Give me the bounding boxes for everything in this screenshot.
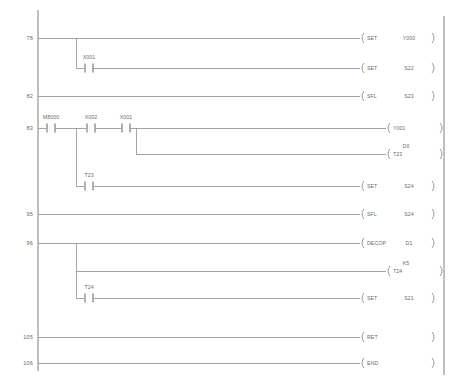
rung-106-bracket-right (432, 358, 434, 368)
coil-t23-left-paren (388, 149, 390, 159)
rung-105-bracket-right (432, 332, 434, 342)
step-number-82: 82 (27, 93, 33, 99)
coil-t24-left-paren (388, 266, 390, 276)
rung-sets24-bracket-right (432, 181, 434, 191)
rung-78-bracket-left (362, 33, 364, 43)
coil-t23-label: T23 (393, 151, 402, 157)
operand-s23: S23 (404, 93, 414, 99)
step-number-96: 96 (27, 240, 33, 246)
step-number-83: 83 (27, 125, 33, 131)
instruction-ret: RET (367, 334, 378, 340)
instruction-set-s21: SET (367, 295, 378, 301)
coil-y001-left-paren (388, 123, 390, 133)
operand-d1: D1 (406, 240, 413, 246)
instruction-sfl-s24: SFL (367, 211, 377, 217)
ladder-canvas: SET Y000 X001 SET S22 SFL S23 M8000 X002 (0, 0, 466, 383)
step-number-106: 106 (23, 360, 33, 366)
rung-s22-bracket-right (432, 63, 434, 73)
rung-95-bracket-left (362, 209, 364, 219)
step-number-95: 95 (27, 211, 33, 217)
rung-sets21-bracket-left (362, 293, 364, 303)
instruction-set-s24: SET (367, 183, 378, 189)
rung-106-bracket-left (362, 358, 364, 368)
contact-m8000-label: M8000 (43, 114, 59, 120)
operand-s24-b: S24 (404, 211, 414, 217)
rung-105-bracket-left (362, 332, 364, 342)
instruction-sfl-s23: SFL (367, 93, 377, 99)
operand-k5-above: K5 (403, 260, 410, 266)
coil-t24-label: T24 (393, 268, 402, 274)
instruction-set-s22: SET (367, 65, 378, 71)
ladder-diagram: SET Y000 X001 SET S22 SFL S23 M8000 X002 (0, 0, 466, 383)
contact-t24-label: T24 (84, 284, 93, 290)
contact-t23-label: T23 (84, 172, 93, 178)
operand-s21: S21 (404, 295, 414, 301)
operand-y000: Y000 (403, 35, 416, 41)
coil-t23-right-paren (440, 149, 442, 159)
operand-s24-a: S24 (404, 183, 414, 189)
operand-s22: S22 (404, 65, 414, 71)
rung-96-bracket-right (432, 238, 434, 248)
rung-sets24-bracket-left (362, 181, 364, 191)
instruction-decop-d1: DECOP (367, 240, 386, 246)
rung-96-bracket-left (362, 238, 364, 248)
instruction-end: END (367, 360, 378, 366)
coil-y001-right-paren (440, 123, 442, 133)
operand-d0-above: D0 (403, 143, 410, 149)
contact-x001-b-label: X001 (120, 114, 133, 120)
contact-x002-label: X002 (85, 114, 98, 120)
contact-x001-a-label: X001 (83, 54, 96, 60)
step-number-78: 78 (27, 35, 33, 41)
rung-sets21-bracket-right (432, 293, 434, 303)
step-number-105: 105 (23, 334, 33, 340)
instruction-set-y000: SET (367, 35, 378, 41)
rung-78-bracket-right (432, 33, 434, 43)
rung-82-bracket-right (432, 91, 434, 101)
rung-82-bracket-left (362, 91, 364, 101)
rung-95-bracket-right (432, 209, 434, 219)
coil-y001-label: Y001 (393, 125, 406, 131)
coil-t24-right-paren (440, 266, 442, 276)
rung-s22-bracket-left (362, 63, 364, 73)
